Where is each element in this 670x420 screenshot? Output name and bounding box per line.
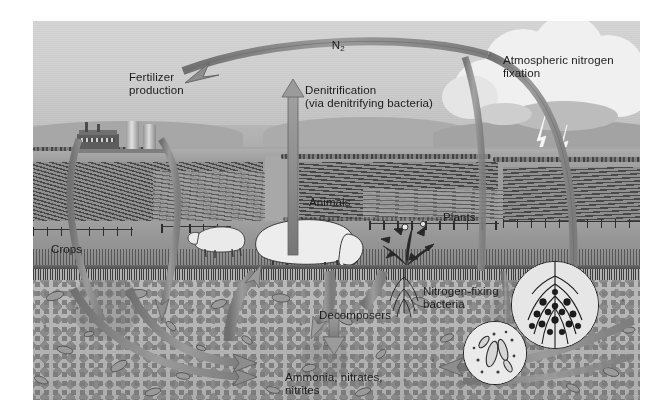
factory-chimney — [85, 122, 88, 132]
nitrogen-cycle-figure: N2 Fertilizer production Denitrification… — [33, 21, 640, 400]
factory-chimney — [97, 124, 100, 132]
factory-window — [81, 138, 115, 142]
pasture-fence — [369, 221, 499, 230]
fertilizer-factory — [77, 134, 119, 150]
cloud-shadow — [476, 103, 532, 125]
pasture-fence — [33, 227, 133, 236]
pasture-fence — [161, 224, 231, 233]
pasture-fence — [503, 219, 640, 228]
factory-yard — [73, 149, 169, 153]
label-animals: Animals — [309, 196, 351, 209]
storage-silo — [126, 121, 139, 151]
plowed-field-right — [503, 167, 640, 225]
storage-silo — [143, 124, 156, 151]
label-nitrogen-fixing-bacteria: Nitrogen-fixing bacteria — [423, 285, 499, 311]
label-ammonia-nitrates-nitrites: Ammonia, nitrates, nitrites — [285, 371, 383, 397]
bacteria-drawing — [464, 322, 526, 384]
hedgerow — [493, 157, 640, 162]
root-nodule-inset — [511, 261, 599, 349]
label-atmospheric-fixation: Atmospheric nitrogen fixation — [503, 54, 614, 80]
figure-stage: N2 Fertilizer production Denitrification… — [0, 0, 670, 420]
label-n2: N2 — [312, 26, 345, 69]
hedgerow — [281, 154, 491, 159]
bacteria-inset — [463, 321, 527, 385]
label-crops: Crops — [51, 243, 82, 256]
root-nodule-drawing — [512, 262, 598, 348]
grass-strip — [265, 156, 299, 226]
label-fertilizer-production: Fertilizer production — [129, 71, 184, 97]
label-plants: Plants — [443, 211, 476, 224]
label-decomposers: Decomposers — [319, 309, 391, 322]
label-denitrification: Denitrification (via denitrifying bacter… — [305, 84, 433, 110]
